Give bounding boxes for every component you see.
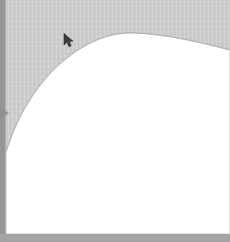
- content-surface[interactable]: [0, 0, 230, 242]
- left-gutter[interactable]: [0, 0, 6, 242]
- app-window: Canvas White content surface Left gutter…: [0, 0, 230, 242]
- bottom-band: [0, 234, 230, 242]
- content-surface-shape: [6, 33, 230, 234]
